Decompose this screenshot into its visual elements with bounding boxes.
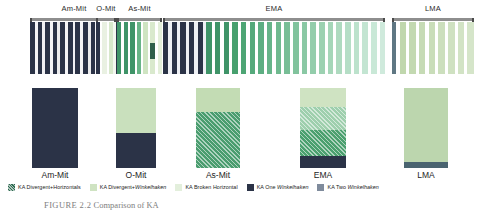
bar-segment xyxy=(404,162,448,168)
legend-swatch xyxy=(317,184,324,191)
bar-segment xyxy=(116,88,156,133)
bar-category-label: As-Mit xyxy=(196,170,240,180)
stacked-bar xyxy=(196,88,240,168)
seriation-stripe xyxy=(380,22,385,74)
legend-swatch xyxy=(90,184,97,191)
bar-segment xyxy=(116,133,156,168)
seriation-group-label: As-Mit xyxy=(117,4,162,13)
chart-legend: KA Divergent+HorizontalsKA Divergent+Win… xyxy=(8,181,474,193)
seriation-group-bracket xyxy=(117,18,162,21)
seriation-group-label: EMA xyxy=(163,4,385,13)
legend-item[interactable]: KA Broken Horizontal xyxy=(175,184,237,191)
bar-segment xyxy=(300,88,346,107)
bar-segment xyxy=(32,88,78,168)
seriation-stripes xyxy=(392,22,474,74)
seriation-group-bracket xyxy=(392,18,474,21)
bar-column-am-mit: Am-Mit xyxy=(32,84,78,168)
bar-column-lma: LMA xyxy=(404,84,448,168)
legend-item[interactable]: KA One Winkelhaken xyxy=(247,184,309,191)
bar-column-o-mit: O-Mit xyxy=(116,84,156,168)
seriation-group-lma: LMA xyxy=(392,18,474,76)
bar-segment xyxy=(300,130,346,156)
legend-label: KA Divergent+Winkelhaken xyxy=(100,184,167,190)
seriation-group-as-mit: As-Mit xyxy=(117,18,162,76)
seriation-stripe xyxy=(158,22,162,74)
legend-label-italic: Winkelhaken xyxy=(277,184,308,190)
seriation-stripe xyxy=(113,22,116,74)
figure-caption: FIGURE 2.2 Comparison of KA xyxy=(44,200,444,210)
bar-segment xyxy=(196,88,240,112)
seriation-stripes xyxy=(117,22,162,74)
stacked-bar-chart: Am-MitO-MitAs-MitEMALMA xyxy=(0,84,478,168)
bar-segment xyxy=(300,156,346,168)
legend-label-italic: Winkelhaken xyxy=(348,184,379,190)
stacked-bar xyxy=(116,88,156,168)
stacked-bar xyxy=(32,88,78,168)
stacked-bar xyxy=(404,88,448,168)
legend-label: KA Broken Horizontal xyxy=(185,184,237,190)
figure-root: Am-MitO-MitAs-MitEMALMA Am-MitO-MitAs-Mi… xyxy=(0,0,478,211)
legend-label: KA One Winkelhaken xyxy=(257,184,309,190)
seriation-stripe xyxy=(467,22,473,74)
bar-column-ema: EMA xyxy=(300,84,346,168)
legend-swatch xyxy=(247,184,254,191)
seriation-group-o-mit: O-Mit xyxy=(96,18,116,76)
bar-category-label: EMA xyxy=(300,170,346,180)
legend-item[interactable]: KA Divergent+Horizontals xyxy=(8,184,81,191)
seriation-group-label: O-Mit xyxy=(96,4,116,13)
seriation-group-ema: EMA xyxy=(163,18,385,76)
caption-number: FIGURE 2.2 xyxy=(44,200,91,210)
seriation-panel-row: Am-MitO-MitAs-MitEMALMA xyxy=(0,0,478,80)
caption-text: Comparison of KA xyxy=(94,200,159,210)
seriation-group-bracket xyxy=(96,18,116,21)
legend-swatch xyxy=(175,184,182,191)
legend-item[interactable]: KA Divergent+Winkelhaken xyxy=(90,184,167,191)
bar-category-label: O-Mit xyxy=(116,170,156,180)
seriation-stripes xyxy=(163,22,385,74)
legend-label-italic: Winkelhaken xyxy=(135,184,166,190)
bar-segment xyxy=(404,88,448,162)
bar-segment xyxy=(300,107,346,129)
legend-swatch xyxy=(8,184,15,191)
bar-category-label: Am-Mit xyxy=(32,170,78,180)
legend-label: KA Two Winkelhaken xyxy=(327,184,378,190)
bar-segment xyxy=(196,112,240,168)
legend-label: KA Divergent+Horizontals xyxy=(18,184,81,190)
legend-item[interactable]: KA Two Winkelhaken xyxy=(317,184,378,191)
seriation-group-bracket xyxy=(163,18,385,21)
seriation-group-label: LMA xyxy=(392,4,474,13)
bar-column-as-mit: As-Mit xyxy=(196,84,240,168)
bar-category-label: LMA xyxy=(404,170,448,180)
stacked-bar xyxy=(300,88,346,168)
seriation-stripes xyxy=(96,22,116,74)
